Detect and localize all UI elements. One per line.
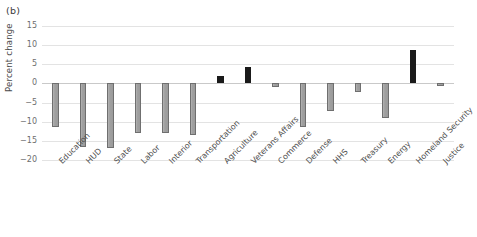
x-axis-tick-label: Justice [442,141,466,165]
bar [190,83,197,135]
gridline [42,103,454,104]
y-axis-tick-label: −15 [20,137,37,145]
bar [382,83,389,117]
bar [355,83,362,92]
gridline [42,122,454,123]
plot-area: 151050−5−10−15−20 EducationHUDStateLabor… [42,26,454,160]
x-axis-tick-label: Labor [140,144,162,166]
y-axis-tick-label: 10 [27,41,37,49]
bar [52,83,59,127]
bar [272,83,279,87]
x-axis-tick: HHS [332,160,349,168]
y-axis-tick-label: 0 [32,79,37,87]
bar [107,83,114,147]
gridline [42,45,454,46]
x-axis-tick-label: State [113,145,134,166]
x-axis-tick-label: Interior [168,139,194,165]
gridline [42,26,454,27]
x-axis-tick: Justice [442,160,468,168]
x-axis-tick-label: Energy [387,140,412,165]
bar [162,83,169,133]
y-axis-tick-label: −10 [20,118,37,126]
x-axis-tick-label: HUD [85,147,103,165]
panel-label: (b) [6,5,20,16]
y-axis-tick-label: −20 [20,156,37,164]
bar [437,83,444,86]
x-axis-tick: State [113,160,134,168]
y-axis-tick-label: −5 [25,99,37,107]
x-axis-tick-label: HHS [332,148,350,166]
x-axis-tick: Labor [140,160,163,168]
bar [217,76,224,84]
y-axis-label: Percent change [4,23,14,92]
bar [300,83,307,127]
x-axis-tick: HUD [85,160,103,168]
x-axis-tick: Energy [387,160,415,168]
y-axis-tick-label: 15 [27,22,37,30]
gridline [42,64,454,65]
x-axis-tick: Interior [168,160,197,168]
bar [135,83,142,133]
zero-line [42,83,454,84]
bar [245,67,252,83]
bar [410,50,417,83]
bar [327,83,334,111]
y-axis-tick-label: 5 [32,60,37,68]
